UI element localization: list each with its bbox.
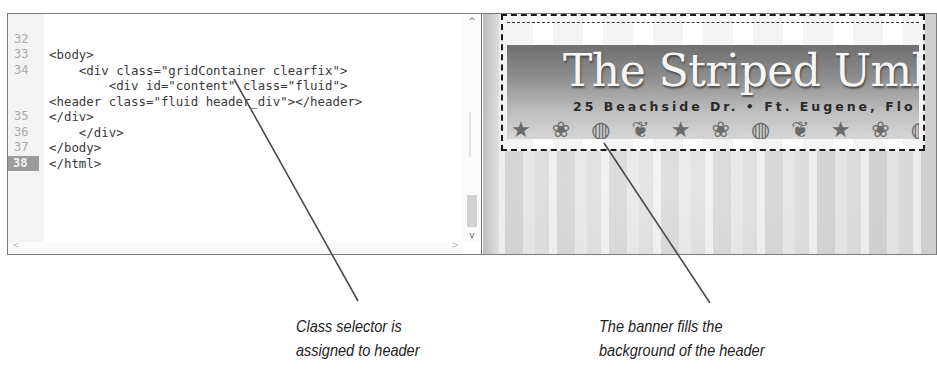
code-line[interactable]: 36 </body> xyxy=(8,109,461,125)
scroll-thumb[interactable] xyxy=(467,195,477,227)
code-line[interactable]: 33 <div class="gridContainer clearfix"> xyxy=(8,32,461,48)
callout-text-line: The banner fills the xyxy=(599,314,764,338)
code-line[interactable]: 35 </div> xyxy=(8,94,461,110)
code-line[interactable]: 37 </html> xyxy=(8,125,461,141)
conch-shell-icon: ❀ xyxy=(552,117,574,139)
scroll-track-marker xyxy=(469,112,471,157)
header-inner-guide: The Striped Uml 25 Beachside Dr. • Ft. E… xyxy=(507,22,919,145)
starfish-icon: ★ xyxy=(831,117,855,139)
code-line-active[interactable]: 38 xyxy=(8,140,461,156)
header-element-selected[interactable]: The Striped Uml 25 Beachside Dr. • Ft. E… xyxy=(501,14,925,151)
vertical-scrollbar[interactable]: ^ v xyxy=(463,14,481,242)
clam-shell-icon: ❦ xyxy=(791,117,813,139)
code-lines[interactable]: 32 <body> 33 <div class="gridContainer c… xyxy=(8,16,461,156)
scroll-up-icon[interactable]: ^ xyxy=(463,16,481,26)
conch-shell-icon: ❀ xyxy=(871,117,893,139)
horizontal-scrollbar[interactable]: < > xyxy=(8,242,463,254)
sand-dollar-icon: ◍ xyxy=(751,117,774,139)
dreamweaver-split-view: 32 <body> 33 <div class="gridContainer c… xyxy=(7,13,937,255)
code-view-pane[interactable]: 32 <body> 33 <div class="gridContainer c… xyxy=(8,14,482,254)
code-line[interactable]: 32 <body> xyxy=(8,16,461,32)
banner-address: 25 Beachside Dr. • Ft. Eugene, Flo xyxy=(573,99,916,114)
seashell-decoration-row: ★ ❀ ◍ ❦ ★ ❀ ◍ ❦ ★ ❀ ◍ xyxy=(511,117,919,139)
callout-text-line: assigned to header xyxy=(296,338,420,362)
sand-dollar-icon: ◍ xyxy=(911,117,919,139)
clam-shell-icon: ❦ xyxy=(631,117,653,139)
active-line-number: 38 xyxy=(8,156,39,172)
page-edge-strip xyxy=(483,14,499,254)
code-line[interactable]: <header class="fluid header_div"></heade… xyxy=(8,63,461,79)
starfish-icon: ★ xyxy=(511,117,535,139)
banner-title: The Striped Uml xyxy=(563,45,919,96)
scroll-down-icon[interactable]: v xyxy=(463,230,481,240)
scroll-left-icon[interactable]: < xyxy=(12,240,20,250)
starfish-icon: ★ xyxy=(671,117,695,139)
scroll-right-icon[interactable]: > xyxy=(451,240,459,250)
design-view-pane[interactable]: The Striped Uml 25 Beachside Dr. • Ft. E… xyxy=(483,14,936,254)
callout-class-selector: Class selector is assigned to header xyxy=(296,314,420,362)
callout-banner-background: The banner fills the background of the h… xyxy=(599,314,764,362)
sand-dollar-icon: ◍ xyxy=(591,117,614,139)
banner-image[interactable]: The Striped Uml 25 Beachside Dr. • Ft. E… xyxy=(507,45,919,139)
code-line[interactable]: </div> xyxy=(8,78,461,94)
code-line[interactable]: 34 <div id="content" class="fluid"> xyxy=(8,47,461,63)
callout-text-line: Class selector is xyxy=(296,314,420,338)
conch-shell-icon: ❀ xyxy=(712,117,734,139)
callout-text-line: background of the header xyxy=(599,338,764,362)
